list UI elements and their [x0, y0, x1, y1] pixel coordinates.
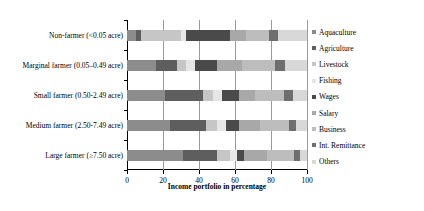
bar-segment — [275, 60, 286, 71]
x-axis-tick — [127, 170, 128, 174]
bar-segment — [127, 120, 170, 131]
bar-segment — [213, 90, 222, 101]
bar-segment — [246, 30, 269, 41]
bar-segment — [255, 90, 284, 101]
legend-swatch-icon — [312, 160, 316, 164]
y-axis-tick — [124, 140, 127, 141]
legend-item[interactable]: Livestock — [312, 56, 365, 72]
bar-row — [127, 30, 307, 41]
legend-item[interactable]: Int. Remittance — [312, 137, 365, 153]
y-axis-category-label: Marginal farmer (0.05–0.49 acre) — [23, 61, 123, 70]
bar-segment — [217, 120, 226, 131]
legend-label: Salary — [319, 109, 338, 118]
bar-row — [127, 150, 307, 161]
bar-segment — [230, 150, 237, 161]
legend-label: Wages — [319, 92, 339, 101]
bar-segment — [289, 120, 296, 131]
bar-segment — [293, 90, 307, 101]
bar-segment — [217, 60, 242, 71]
bar-segment — [296, 120, 307, 131]
bar-segment — [195, 60, 217, 71]
bar-series-container — [127, 20, 307, 170]
legend-label: Livestock — [319, 60, 349, 69]
bar-segment — [141, 30, 181, 41]
x-axis-tick — [199, 170, 200, 174]
legend-item[interactable]: Agriculture — [312, 40, 365, 56]
x-axis-title: Income portfolio in percentage — [127, 182, 307, 191]
legend-item[interactable]: Business — [312, 121, 365, 137]
bar-segment — [244, 150, 267, 161]
bar-segment — [230, 30, 246, 41]
bar-segment — [177, 60, 186, 71]
legend-label: Business — [319, 125, 346, 134]
y-axis-tick — [124, 50, 127, 51]
bar-segment — [165, 90, 203, 101]
x-axis-tick — [235, 170, 236, 174]
y-axis-category-label: Small farmer (0.50-2.49 acre) — [34, 91, 123, 100]
bar-segment — [239, 90, 255, 101]
bar-segment — [278, 30, 307, 41]
legend-label: Aquaculture — [319, 28, 356, 37]
legend-swatch-icon — [312, 62, 316, 66]
legend-item[interactable]: Salary — [312, 105, 365, 121]
bar-row — [127, 90, 307, 101]
legend-swatch-icon — [312, 46, 316, 50]
bar-segment — [203, 90, 214, 101]
bar-segment — [242, 60, 274, 71]
y-axis-tick — [124, 110, 127, 111]
chart-figure: 020406080100 Non-farmer (<0.05 acre)Marg… — [0, 0, 424, 211]
bar-segment — [127, 90, 165, 101]
legend-swatch-icon — [312, 79, 316, 83]
bar-segment — [186, 60, 195, 71]
bar-segment — [127, 60, 156, 71]
bar-segment — [285, 60, 307, 71]
bar-segment — [260, 120, 289, 131]
bar-segment — [269, 30, 278, 41]
legend-item[interactable]: Fishing — [312, 73, 365, 89]
bar-row — [127, 60, 307, 71]
bar-segment — [217, 150, 230, 161]
y-axis-category-label: Medium farmer (2.50-7.49 acre) — [26, 121, 123, 130]
bar-segment — [206, 120, 217, 131]
legend-swatch-icon — [312, 143, 316, 147]
bar-segment — [284, 90, 293, 101]
bar-row — [127, 120, 307, 131]
y-axis-tick — [124, 80, 127, 81]
bar-segment — [222, 90, 238, 101]
gridline — [307, 20, 308, 170]
bar-segment — [183, 150, 217, 161]
legend-label: Others — [319, 157, 339, 166]
legend-swatch-icon — [312, 30, 316, 34]
bar-segment — [156, 60, 178, 71]
legend-swatch-icon — [312, 95, 316, 99]
legend-swatch-icon — [312, 127, 316, 131]
bar-segment — [239, 120, 261, 131]
legend-label: Int. Remittance — [319, 141, 365, 150]
x-axis-tick — [271, 170, 272, 174]
bar-segment — [186, 30, 229, 41]
bar-segment — [226, 120, 239, 131]
bar-segment — [267, 150, 294, 161]
chart-legend: AquacultureAgricultureLivestockFishingWa… — [312, 24, 365, 170]
y-axis-category-label: Non-farmer (<0.05 acre) — [49, 31, 123, 40]
bar-segment — [237, 150, 244, 161]
x-axis-tick — [307, 170, 308, 174]
bar-segment — [300, 150, 307, 161]
bar-segment — [127, 150, 183, 161]
legend-label: Agriculture — [319, 44, 354, 53]
legend-item[interactable]: Others — [312, 154, 365, 170]
legend-item[interactable]: Aquaculture — [312, 24, 365, 40]
legend-swatch-icon — [312, 111, 316, 115]
x-axis-tick — [163, 170, 164, 174]
legend-item[interactable]: Wages — [312, 89, 365, 105]
y-axis-tick — [124, 20, 127, 21]
plot-area — [127, 20, 307, 170]
bar-segment — [170, 120, 206, 131]
bar-segment — [127, 30, 136, 41]
y-axis-category-label: Large farmer (≥7.50 acre) — [45, 151, 123, 160]
legend-label: Fishing — [319, 76, 342, 85]
